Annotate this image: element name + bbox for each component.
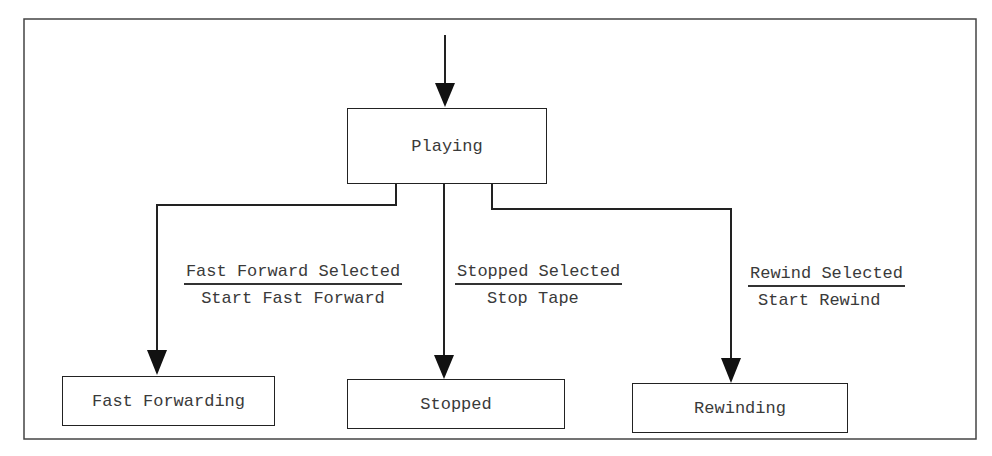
transition-label-rewind: Rewind Selected Start Rewind <box>748 264 938 310</box>
state-playing: Playing <box>347 108 547 184</box>
initial-arrowhead-icon <box>435 83 455 107</box>
action-label: Start Rewind <box>748 291 938 310</box>
event-label: Stopped Selected <box>455 262 622 285</box>
action-label: Stop Tape <box>455 289 655 308</box>
event-label: Fast Forward Selected <box>184 262 402 285</box>
transition-label-ff: Fast Forward Selected Start Fast Forward <box>163 262 423 308</box>
action-label: Start Fast Forward <box>163 289 423 308</box>
transition-label-stopped: Stopped Selected Stop Tape <box>455 262 655 308</box>
state-fast-forwarding: Fast Forwarding <box>62 376 275 426</box>
state-stopped: Stopped <box>347 379 565 429</box>
arrowhead-stopped-icon <box>434 355 454 379</box>
state-rewinding: Rewinding <box>632 383 848 433</box>
arrowhead-ff-icon <box>147 350 167 375</box>
arrowhead-rewind-icon <box>721 358 741 383</box>
event-label: Rewind Selected <box>748 264 905 287</box>
